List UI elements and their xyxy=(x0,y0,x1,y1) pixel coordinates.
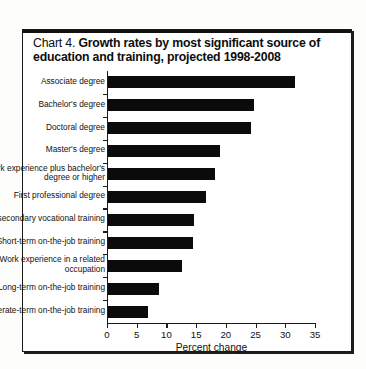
y-tick xyxy=(103,163,107,164)
x-tick-label: 10 xyxy=(161,329,172,340)
category-label: Work experience plus bachelor's degree o… xyxy=(0,164,105,183)
chart-frame: Chart 4. Growth rates by most significan… xyxy=(22,29,352,352)
category-label: Moderate-term on-the-job training xyxy=(0,306,105,315)
bar xyxy=(108,168,215,180)
y-tick xyxy=(103,186,107,187)
plot-area: Associate degreeBachelor's degreeDoctora… xyxy=(107,71,315,331)
y-tick xyxy=(103,94,107,95)
category-label: Doctoral degree xyxy=(0,123,105,132)
x-tick-label: 20 xyxy=(221,329,232,340)
category-label: Master's degree xyxy=(0,145,105,154)
y-tick xyxy=(103,140,107,141)
x-tick xyxy=(196,323,197,328)
x-tick xyxy=(137,323,138,328)
x-tick xyxy=(315,323,316,328)
chart-page: Chart 4. Growth rates by most significan… xyxy=(0,0,366,369)
page-title: Chart 4. Growth rates by most significan… xyxy=(33,36,341,64)
bar xyxy=(108,191,206,203)
x-tick-label: 30 xyxy=(280,329,291,340)
category-label: Work experience in a related occupation xyxy=(0,255,105,274)
bar xyxy=(108,145,220,157)
x-axis-label: Percent change xyxy=(107,342,316,353)
bar xyxy=(108,237,193,249)
x-tick xyxy=(226,323,227,328)
x-tick-label: 0 xyxy=(104,329,109,340)
x-tick-label: 5 xyxy=(134,329,139,340)
y-tick xyxy=(103,277,107,278)
category-label: Short-term on-the-job training xyxy=(0,237,105,246)
bar xyxy=(108,283,159,295)
bar xyxy=(108,306,148,318)
category-label: Associate degree xyxy=(0,77,105,86)
x-tick-label: 35 xyxy=(310,329,321,340)
y-tick xyxy=(103,117,107,118)
bar xyxy=(108,260,182,272)
bar xyxy=(108,99,254,111)
title-rule xyxy=(23,30,351,33)
bar xyxy=(108,214,194,226)
x-tick xyxy=(256,323,257,328)
bar xyxy=(108,76,295,88)
category-label: First professional degree xyxy=(0,191,105,200)
y-tick xyxy=(103,231,107,232)
chart-number: Chart 4. xyxy=(33,36,75,50)
x-tick xyxy=(166,323,167,328)
bar xyxy=(108,122,251,134)
y-tick xyxy=(103,208,107,209)
x-tick xyxy=(285,323,286,328)
x-tick xyxy=(107,323,108,328)
chart-title-text: Growth rates by most significant source … xyxy=(33,36,320,64)
category-label: Postsecondary vocational training xyxy=(0,214,105,223)
x-tick-label: 25 xyxy=(250,329,261,340)
category-label: Bachelor's degree xyxy=(0,100,105,109)
y-tick xyxy=(103,254,107,255)
x-tick-label: 15 xyxy=(191,329,202,340)
category-label: Long-term on-the-job training xyxy=(0,283,105,292)
y-tick xyxy=(103,300,107,301)
